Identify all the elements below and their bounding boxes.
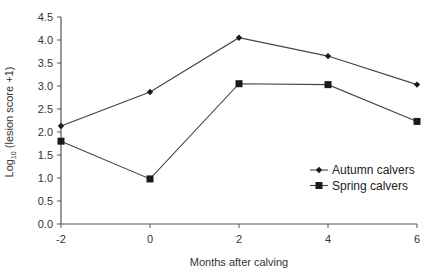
- diamond-marker-icon: [236, 35, 242, 41]
- chart-canvas: 0.00.51.01.52.02.53.03.54.04.5 -20246 Au…: [0, 0, 433, 279]
- y-tick-label: 0.0: [38, 218, 53, 230]
- y-tick-label: 3.5: [38, 57, 53, 69]
- y-tick-label: 0.5: [38, 195, 53, 207]
- y-axis-title: Log10 (lesion score +1): [3, 67, 17, 178]
- x-axis-title: Months after calving: [190, 256, 288, 268]
- x-tick-label: 2: [236, 233, 242, 245]
- plot-area: [58, 35, 421, 183]
- x-tick-label: -2: [56, 233, 66, 245]
- y-tick-label: 1.5: [38, 149, 53, 161]
- y-tick-label: 2.0: [38, 126, 53, 138]
- y-tick-label: 1.0: [38, 172, 53, 184]
- square-marker-icon: [236, 80, 243, 87]
- square-marker-icon: [316, 182, 323, 189]
- x-tick-label: 0: [147, 233, 153, 245]
- y-tick-label: 4.5: [38, 11, 53, 23]
- diamond-marker-icon: [58, 123, 64, 129]
- y-tick-label: 4.0: [38, 34, 53, 46]
- line-chart: 0.00.51.01.52.02.53.03.54.04.5 -20246 Au…: [0, 0, 433, 279]
- square-marker-icon: [58, 138, 65, 145]
- legend-item: Spring calvers: [310, 179, 408, 193]
- diamond-marker-icon: [147, 89, 153, 95]
- legend-label: Autumn calvers: [332, 163, 415, 177]
- diamond-marker-icon: [316, 167, 322, 173]
- square-marker-icon: [325, 81, 332, 88]
- x-tick-label: 4: [325, 233, 331, 245]
- diamond-marker-icon: [414, 81, 420, 87]
- square-marker-icon: [414, 118, 421, 125]
- square-marker-icon: [147, 175, 154, 182]
- x-axis: -20246: [56, 224, 420, 245]
- y-tick-label: 3.0: [38, 80, 53, 92]
- x-tick-label: 6: [414, 233, 420, 245]
- diamond-marker-icon: [325, 53, 331, 59]
- y-axis: 0.00.51.01.52.02.53.03.54.04.5: [38, 11, 61, 230]
- legend-label: Spring calvers: [332, 179, 408, 193]
- legend: Autumn calversSpring calvers: [310, 163, 415, 193]
- y-tick-label: 2.5: [38, 103, 53, 115]
- legend-item: Autumn calvers: [310, 163, 415, 177]
